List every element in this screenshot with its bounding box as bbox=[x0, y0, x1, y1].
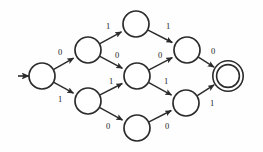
state-circle bbox=[75, 88, 101, 114]
transition-edge-q0-q2-1 bbox=[54, 82, 74, 93]
state-node[interactable] bbox=[123, 11, 149, 37]
transition-edge-q4-q7-1 bbox=[149, 83, 172, 96]
transition-label: 0 bbox=[158, 50, 162, 60]
transition-label: 0 bbox=[165, 121, 169, 131]
state-circle bbox=[124, 63, 150, 89]
transition-label: 0 bbox=[211, 46, 215, 56]
transition-label: 1 bbox=[210, 98, 214, 108]
transition-edge-q3-q6-1 bbox=[148, 30, 172, 42]
state-node[interactable] bbox=[174, 37, 200, 63]
accept-inner-ring bbox=[217, 65, 240, 88]
state-circle bbox=[75, 37, 101, 63]
state-node[interactable] bbox=[75, 88, 101, 114]
state-node[interactable] bbox=[75, 37, 101, 63]
state-circle bbox=[29, 63, 55, 89]
state-circle bbox=[173, 90, 199, 116]
state-node-start[interactable] bbox=[29, 63, 55, 89]
state-circle bbox=[124, 115, 150, 141]
transition-label: 1 bbox=[166, 21, 170, 31]
state-node-accepting[interactable] bbox=[213, 61, 243, 91]
transition-label: 1 bbox=[58, 94, 62, 104]
transition-label: 1 bbox=[106, 21, 110, 31]
transition-edge-q6-q8-0 bbox=[198, 57, 214, 67]
transition-label: 0 bbox=[115, 50, 119, 60]
transition-edge-q7-q8-1 bbox=[197, 85, 214, 96]
state-diagram-canvas: 011010101001 bbox=[0, 0, 263, 152]
state-circle bbox=[174, 37, 200, 63]
state-circle bbox=[123, 11, 149, 37]
state-node[interactable] bbox=[173, 90, 199, 116]
state-node[interactable] bbox=[124, 115, 150, 141]
transition-label: 0 bbox=[106, 121, 110, 131]
transition-label: 1 bbox=[109, 76, 113, 86]
transition-label: 1 bbox=[164, 76, 168, 86]
automaton-svg: 011010101001 bbox=[0, 0, 263, 152]
transition-edge-q0-q1-0 bbox=[54, 58, 74, 69]
state-node[interactable] bbox=[124, 63, 150, 89]
states-layer bbox=[29, 11, 243, 141]
transition-edge-q2-q5-0 bbox=[100, 108, 123, 121]
transition-label: 0 bbox=[58, 47, 62, 57]
transition-edge-q1-q3-1 bbox=[100, 32, 122, 44]
